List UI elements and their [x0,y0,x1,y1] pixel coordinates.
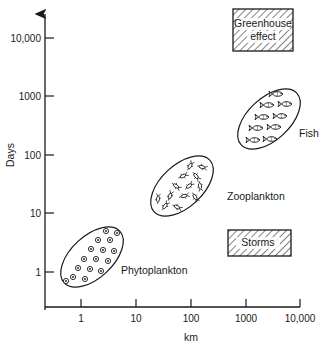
fish-ellipse [227,78,311,161]
y-axis-ticks [45,38,54,272]
phytoplankton-ellipse [50,216,134,299]
y-tick-label-100: 100 [24,150,41,161]
x-axis-title: km [184,331,198,343]
x-tick-label-1: 1 [78,313,84,324]
x-tick-label-1000: 1000 [235,313,258,324]
greenhouse-effect-label-line1: Greenhouse [234,17,292,29]
greenhouse-effect-box: Greenhouse effect [233,9,293,51]
phytoplankton-group: Phytoplankton [50,216,188,299]
figure-canvas: 10,000 1000 100 10 1 1 10 100 1000 10,00… [0,0,327,349]
y-tick-label-10: 10 [30,208,42,219]
y-axis-title: Days [4,143,16,167]
y-tick-label-1000: 1000 [19,91,42,102]
zooplankton-ellipse [140,145,224,228]
x-axis-ticks [81,299,300,307]
scatter-diagram: 10,000 1000 100 10 1 1 10 100 1000 10,00… [0,0,327,349]
y-tick-label-10000: 10,000 [10,33,41,44]
fish-label: Fish [299,127,319,139]
x-tick-label-10000: 10,000 [285,313,316,324]
fish-group: Fish [227,78,319,161]
fish-markers [246,91,292,143]
zooplankton-markers [155,160,208,212]
y-tick-label-1: 1 [35,267,41,278]
zooplankton-group: Zooplankton [140,145,285,228]
zooplankton-label: Zooplankton [227,190,285,202]
x-tick-label-10: 10 [130,313,142,324]
phytoplankton-label: Phytoplankton [121,264,188,276]
storms-box: Storms [228,230,291,256]
storms-label: Storms [241,236,274,248]
greenhouse-effect-label-line2: effect [250,30,276,42]
phytoplankton-markers [63,228,119,283]
x-tick-label-100: 100 [183,313,200,324]
